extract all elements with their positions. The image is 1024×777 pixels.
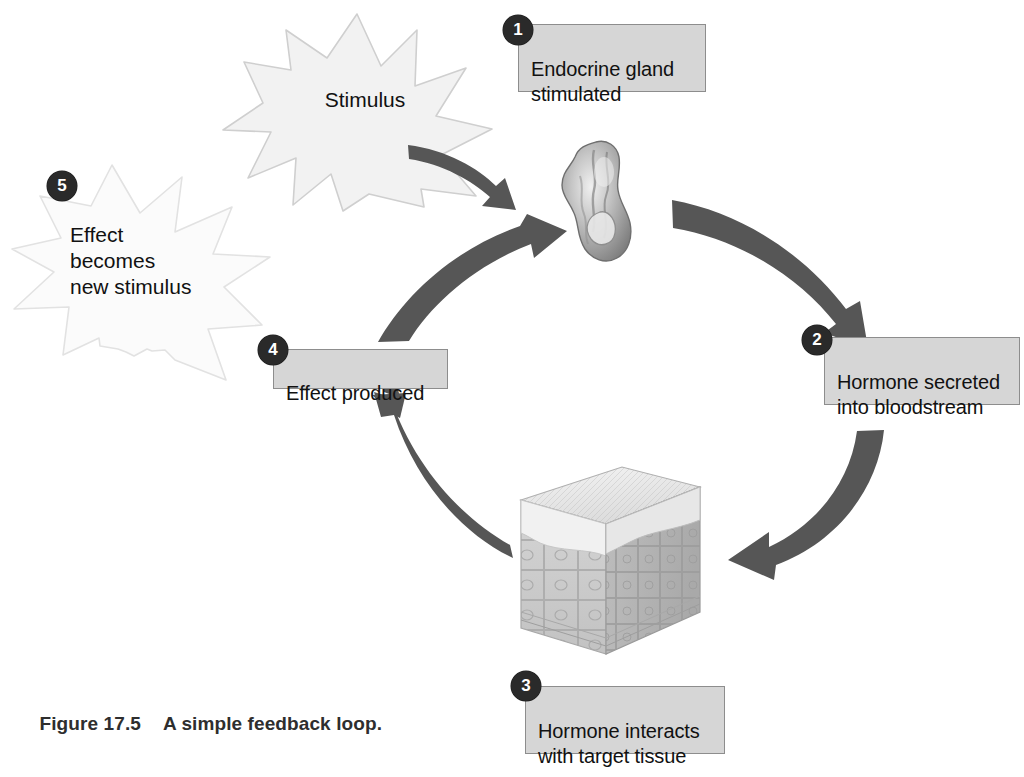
step-1-box: Endocrine gland stimulated: [518, 24, 706, 92]
endocrine-gland-illustration: [562, 141, 631, 261]
figure-caption-text: A simple feedback loop.: [163, 713, 382, 734]
stimulus-to-gland-arrow: [408, 145, 516, 210]
step-1-badge: 1: [503, 15, 533, 45]
step-3-label: Hormone interacts with target tissue: [538, 719, 714, 769]
hormone-to-tissue-arrow: [728, 430, 884, 580]
step-3-badge: 3: [511, 671, 541, 701]
step-4-label: Effect produced: [286, 381, 437, 406]
step-4-badge: 4: [258, 335, 288, 365]
step-2-badge: 2: [802, 325, 832, 355]
step-4-box: Effect produced: [273, 349, 448, 389]
gland-to-hormone-arrow: [672, 200, 868, 348]
figure-caption-label: Figure 17.5: [40, 713, 141, 734]
figure-container: Stimulus Effect becomes new stimulus End…: [0, 0, 1024, 777]
step-5-badge: 5: [47, 171, 77, 201]
target-tissue-block-illustration: [521, 467, 700, 654]
stimulus-callout-label: Stimulus: [300, 87, 430, 113]
step-2-box: Hormone secreted into bloodstream: [824, 337, 1020, 405]
step-2-label: Hormone secreted into bloodstream: [837, 370, 1009, 420]
step-1-label: Endocrine gland stimulated: [531, 57, 695, 107]
effect-to-gland-arrow: [378, 214, 567, 342]
step-3-box: Hormone interacts with target tissue: [525, 686, 725, 754]
effect-new-stimulus-callout-label: Effect becomes new stimulus: [70, 222, 245, 300]
figure-caption: Figure 17.5A simple feedback loop.: [18, 691, 382, 757]
